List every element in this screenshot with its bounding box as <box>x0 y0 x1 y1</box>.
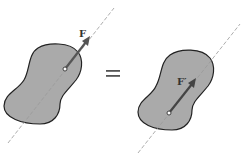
right-rigid-body <box>138 50 214 130</box>
equals-sign <box>106 70 120 77</box>
left-line-of-action <box>8 8 114 143</box>
transmissibility-diagram: F F′ <box>0 0 246 155</box>
right-force-label: F′ <box>177 76 187 87</box>
left-application-point <box>63 67 67 71</box>
left-rigid-body-group <box>4 44 82 124</box>
left-rigid-body <box>4 44 82 124</box>
left-force-label: F <box>79 28 86 39</box>
right-rigid-body-group <box>138 50 214 130</box>
right-application-point <box>167 111 171 115</box>
